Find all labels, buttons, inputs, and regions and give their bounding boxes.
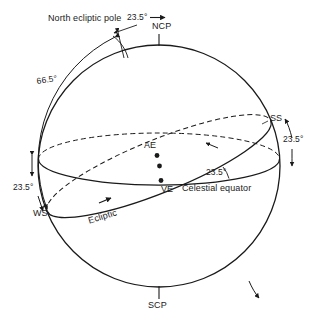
label-celestial-equator: Celestial equator bbox=[182, 183, 251, 193]
obliquity-outer-arc bbox=[38, 37, 115, 209]
label-ncp: NCP bbox=[152, 21, 171, 31]
label-tilt-top: 23.5° bbox=[127, 12, 147, 22]
label-north-ecliptic-pole: North ecliptic pole bbox=[48, 13, 121, 23]
ecliptic-direction-arrow-front bbox=[99, 198, 111, 203]
celestial-sphere-diagram: North ecliptic pole 23.5° NCP 66.5° 23.5… bbox=[0, 0, 317, 326]
label-ae: AE bbox=[144, 140, 156, 150]
label-ve: VE bbox=[161, 184, 173, 194]
vernal-equinox-dot bbox=[159, 178, 164, 183]
label-scp: SCP bbox=[148, 300, 167, 310]
label-tilt-right: 23.5° bbox=[283, 134, 303, 144]
label-tilt-center: 23.5° bbox=[206, 167, 226, 177]
celestial-sphere-graphic bbox=[0, 0, 317, 326]
pole-tilt-arc bbox=[113, 36, 128, 58]
autumnal-equinox-dot bbox=[155, 153, 160, 158]
celestial-equator-ellipse bbox=[39, 133, 280, 185]
pole-tilt-indicator bbox=[118, 32, 124, 58]
label-ss: SS bbox=[270, 113, 282, 123]
sphere-center-dot bbox=[157, 164, 162, 169]
ecliptic-direction-arrow-back bbox=[206, 143, 218, 148]
ss-leader bbox=[262, 121, 268, 124]
top-tilt-leader bbox=[114, 25, 137, 33]
label-ws: WS bbox=[33, 208, 48, 218]
bottom-right-arrow bbox=[249, 281, 259, 298]
label-tilt-left: 23.5° bbox=[13, 182, 33, 192]
